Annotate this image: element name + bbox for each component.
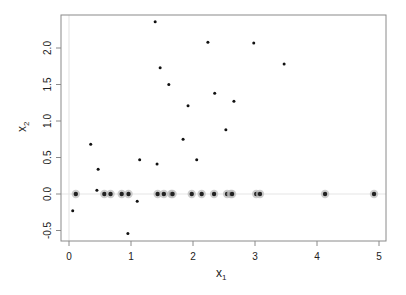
data-point	[71, 209, 74, 212]
data-point	[190, 192, 194, 196]
data-point	[283, 63, 286, 66]
data-point	[167, 83, 170, 86]
data-point	[199, 192, 203, 196]
y-tick-label: 0.0	[42, 187, 53, 201]
x-axis: 012345	[66, 241, 382, 262]
data-point	[213, 92, 216, 95]
data-point	[170, 192, 174, 196]
data-point	[195, 158, 198, 161]
data-point	[206, 41, 209, 44]
x-tick-label: 2	[190, 251, 196, 262]
data-point	[159, 66, 162, 69]
data-point	[136, 200, 139, 203]
data-point	[323, 192, 327, 196]
y-tick-label: 1.5	[42, 77, 53, 91]
data-point	[232, 100, 235, 103]
data-point	[230, 192, 234, 196]
plot-frame	[61, 15, 386, 241]
data-point	[95, 189, 98, 192]
data-point	[258, 192, 262, 196]
data-point	[372, 192, 376, 196]
data-point	[126, 232, 129, 235]
data-point	[154, 20, 157, 23]
data-point	[74, 192, 78, 196]
data-point	[102, 192, 106, 196]
data-point	[187, 104, 190, 107]
data-point	[138, 158, 141, 161]
y-tick-label: 1.0	[42, 114, 53, 128]
x-axis-label: x1	[216, 266, 227, 282]
data-point	[126, 192, 130, 196]
y-tick-label: 0.5	[42, 150, 53, 164]
data-points	[71, 20, 378, 235]
y-tick-label: -0.5	[42, 221, 53, 239]
y-axis: -0.50.00.51.01.52.0	[42, 41, 61, 240]
x-tick-label: 4	[314, 251, 320, 262]
x-tick-label: 3	[252, 251, 258, 262]
y-axis-label: x2	[15, 121, 31, 132]
scatter-plot: 012345 -0.50.00.51.01.52.0 x1 x2	[0, 0, 406, 295]
data-point	[252, 41, 255, 44]
data-point	[89, 143, 92, 146]
data-point	[224, 128, 227, 131]
x-tick-label: 1	[128, 251, 134, 262]
data-point	[155, 192, 159, 196]
data-point	[162, 192, 166, 196]
reference-lines	[61, 15, 386, 241]
data-point	[156, 163, 159, 166]
data-point	[212, 192, 216, 196]
y-tick-label: 2.0	[42, 41, 53, 55]
x-tick-label: 5	[376, 251, 382, 262]
data-point	[182, 138, 185, 141]
data-point	[120, 192, 124, 196]
data-point	[108, 192, 112, 196]
data-point	[97, 168, 100, 171]
x-tick-label: 0	[66, 251, 72, 262]
